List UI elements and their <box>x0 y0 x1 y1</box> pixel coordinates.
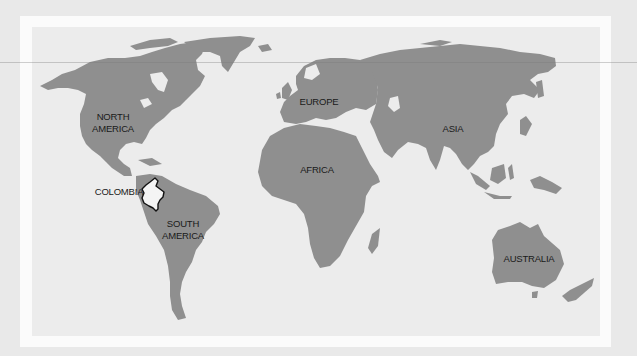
label-australia: AUSTRALIA <box>503 253 555 265</box>
label-colombia: COLOMBIA <box>94 186 144 198</box>
label-north-america-line2: AMERICA <box>88 123 138 135</box>
label-colombia-text: COLOMBIA <box>94 186 144 198</box>
label-south-america: SOUTH AMERICA <box>160 218 206 242</box>
label-south-america-line1: SOUTH <box>160 218 206 230</box>
label-north-america-line1: NORTH <box>88 111 138 123</box>
label-africa-text: AFRICA <box>297 164 337 176</box>
north-america-shape <box>40 36 272 176</box>
africa-shape <box>258 124 380 268</box>
label-north-america: NORTH AMERICA <box>88 111 138 135</box>
label-africa: AFRICA <box>297 164 337 176</box>
europe-shape <box>276 58 378 124</box>
asia-shape <box>360 44 562 199</box>
label-south-america-line2: AMERICA <box>160 230 206 242</box>
arctic-islands-shape <box>420 40 452 46</box>
label-asia: ASIA <box>439 123 467 135</box>
label-europe: EUROPE <box>297 96 341 108</box>
label-australia-text: AUSTRALIA <box>503 253 555 265</box>
scan-artifact-line <box>0 62 637 63</box>
label-asia-text: ASIA <box>439 123 467 135</box>
world-map <box>0 0 637 356</box>
label-europe-text: EUROPE <box>297 96 341 108</box>
